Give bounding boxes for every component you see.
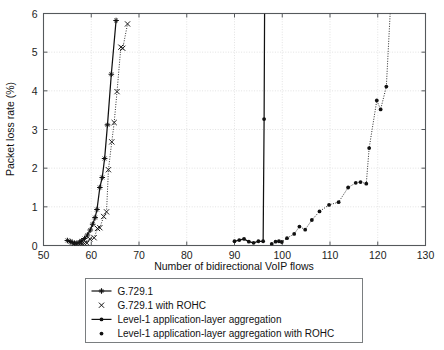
data-point-marker	[237, 238, 241, 242]
legend-label: G.729.1	[118, 286, 154, 297]
x-tick-label: 50	[38, 249, 50, 261]
x-tick-label: 100	[273, 249, 291, 261]
y-tick-label: 4	[32, 85, 38, 97]
legend-label: Level-1 application-layer aggregation	[118, 314, 282, 325]
x-tick-label: 90	[229, 249, 241, 261]
data-point-marker	[280, 240, 284, 244]
data-point-marker	[346, 186, 350, 190]
legend-label: Level-1 application-layer aggregation wi…	[118, 328, 335, 339]
data-point-marker	[375, 99, 379, 103]
data-point-marker	[337, 200, 341, 204]
chart-figure: 50607080901001101201300123456 Number of …	[0, 0, 444, 350]
x-tick-label: 70	[133, 249, 145, 261]
data-point-marker	[233, 239, 237, 243]
data-point-marker	[99, 288, 105, 294]
data-point-marker	[100, 332, 104, 336]
legend-item-4[interactable]: Level-1 application-layer aggregation wi…	[100, 328, 335, 339]
data-point-marker	[298, 225, 302, 229]
packet-loss-rate-chart: 50607080901001101201300123456 Number of …	[0, 0, 444, 350]
data-point-marker	[274, 240, 278, 244]
data-point-marker	[270, 242, 274, 246]
data-point-marker	[105, 122, 111, 128]
legend-label: G.729.1 with ROHC	[118, 300, 206, 311]
data-point-marker	[100, 318, 104, 322]
data-point-marker	[292, 232, 296, 236]
data-point-marker	[367, 146, 371, 150]
x-tick-label: 60	[85, 249, 97, 261]
x-tick-label: 110	[322, 249, 339, 261]
y-tick-label: 6	[32, 8, 38, 20]
data-point-marker	[94, 207, 100, 213]
data-point-marker	[285, 236, 289, 240]
x-tick-label: 120	[369, 249, 387, 261]
y-tick-label: 5	[32, 46, 38, 58]
data-point-marker	[247, 240, 251, 244]
x-tick-label: 80	[181, 249, 193, 261]
data-point-marker	[252, 241, 256, 245]
y-axis-title: Packet loss rate (%)	[4, 82, 16, 176]
data-point-marker	[364, 182, 368, 186]
data-point-marker	[242, 237, 246, 241]
data-point-marker	[327, 203, 331, 207]
data-point-marker	[261, 239, 265, 243]
data-point-marker	[379, 107, 383, 111]
data-point-marker	[262, 117, 266, 121]
y-tick-label: 0	[32, 240, 38, 252]
data-point-marker	[318, 210, 322, 214]
legend-item-3[interactable]: Level-1 application-layer aggregation	[92, 314, 282, 325]
y-tick-label: 3	[32, 124, 38, 136]
data-point-marker	[310, 218, 314, 222]
data-point-marker	[303, 228, 307, 232]
data-point-marker	[354, 181, 358, 185]
x-tick-label: 130	[417, 249, 435, 261]
data-point-marker	[359, 180, 363, 184]
y-tick-label: 2	[32, 162, 38, 174]
chart-legend: G.729.1G.729.1 with ROHCLevel-1 applicat…	[86, 279, 363, 343]
data-point-marker	[256, 239, 260, 243]
data-point-marker	[384, 85, 388, 89]
y-tick-label: 1	[32, 201, 38, 213]
x-axis-title: Number of bidirectional VoIP flows	[154, 260, 314, 272]
